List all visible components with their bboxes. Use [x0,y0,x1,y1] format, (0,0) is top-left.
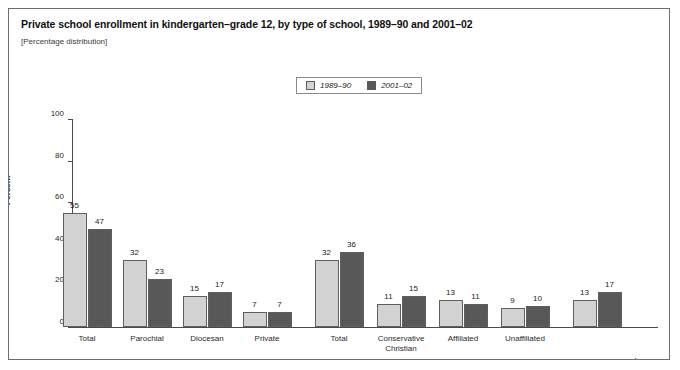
group-label-text: Catholic [161,359,193,360]
bar-total-2001-02 [340,252,364,327]
bar-conservative-christian-2001-02 [402,296,426,327]
group-label-catholic: Catholic [107,359,247,360]
group-label-text: Nonsectarian [584,359,635,360]
group-label-footnote-marker: a [456,357,459,360]
group-label-other-religious: Other religiousa [359,359,499,360]
bar-total-1989-90 [63,213,87,327]
bar-value-label: 55 [63,201,87,210]
bar-value-label: 36 [340,240,364,249]
category-label-unaffiliated: Unaffiliated [480,334,570,344]
bar-parochial-1989-90 [123,260,147,327]
group-label-footnote-marker: b [635,357,638,360]
x-axis-baseline [72,327,658,328]
chart-subtitle: [Percentage distribution] [21,37,107,46]
bar-value-label: 7 [243,300,267,309]
legend-label-1989-90: 1989–90 [320,81,351,90]
legend-item-1989-90: 1989–90 [306,81,351,90]
bar-value-label: 15 [183,284,207,293]
chart-title: Private school enrollment in kindergarte… [21,18,472,30]
chart-legend: 1989–90 2001–02 [296,77,422,94]
bar-total-2001-02 [88,229,112,327]
legend-swatch-icon-1989-90 [306,81,315,90]
bar-conservative-christian-1989-90 [377,304,401,327]
bar-value-label: 13 [439,288,463,297]
bar-value-label: 32 [315,248,339,257]
bar-value-label: 32 [123,248,147,257]
bar-nonsectarian-1989-90 [573,300,597,327]
bar-value-label: 9 [501,296,525,305]
y-axis-title: Percent [8,176,12,205]
chart-figure: Private school enrollment in kindergarte… [8,8,670,360]
bar-value-label: 10 [526,294,550,303]
group-label-text: Other religious [399,359,456,360]
bar-parochial-2001-02 [148,279,172,327]
y-tick-label-60: 60 [34,192,64,201]
y-tick-label-20: 20 [34,275,64,284]
bar-private-1989-90 [243,312,267,327]
plot-area: 554732231517773236111513119101317 [72,119,658,327]
legend-swatch-icon-2001-02 [367,81,376,90]
group-label-nonsectarian: Nonsectarianb [541,359,670,360]
bar-total-1989-90 [315,260,339,327]
bar-value-label: 17 [208,280,232,289]
legend-label-2001-02: 2001–02 [381,81,412,90]
bar-diocesan-1989-90 [183,296,207,327]
bar-value-label: 11 [377,292,401,301]
bar-value-label: 47 [88,217,112,226]
bar-value-label: 7 [268,300,292,309]
bar-diocesan-2001-02 [208,292,232,327]
bar-unaffiliated-1989-90 [501,308,525,327]
bar-unaffiliated-2001-02 [526,306,550,327]
y-tick-label-100: 100 [34,109,64,118]
bar-affiliated-1989-90 [439,300,463,327]
bar-nonsectarian-2001-02 [598,292,622,327]
bar-value-label: 11 [464,292,488,301]
y-tick-label-40: 40 [34,234,64,243]
bar-value-label: 15 [402,284,426,293]
bar-affiliated-2001-02 [464,304,488,327]
y-tick-mark-0 [68,327,72,328]
bar-value-label: 23 [148,267,172,276]
legend-item-2001-02: 2001–02 [367,81,412,90]
bar-private-2001-02 [268,312,292,327]
bar-value-label: 13 [573,288,597,297]
y-tick-label-0: 0 [34,317,64,326]
y-tick-label-80: 80 [34,151,64,160]
bar-value-label: 17 [598,280,622,289]
